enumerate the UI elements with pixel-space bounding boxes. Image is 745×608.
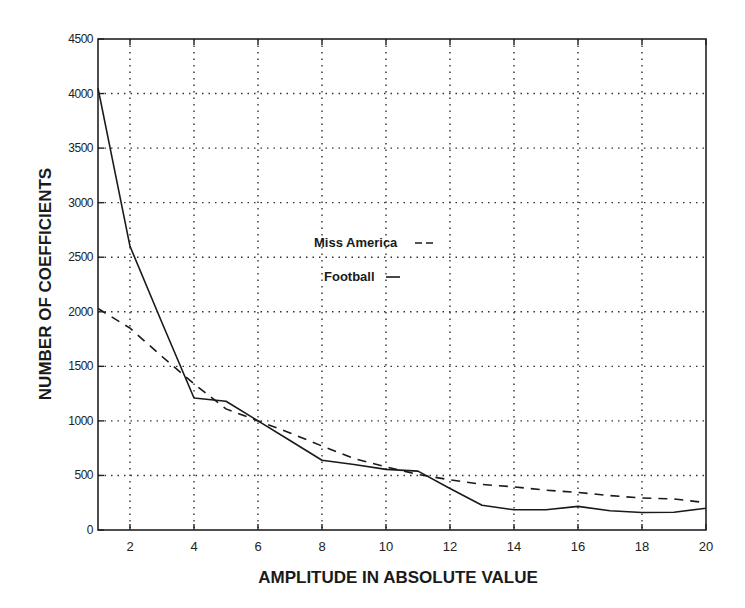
series-football	[98, 88, 706, 512]
grid-lines	[98, 39, 706, 530]
x-tick-label: 4	[190, 539, 197, 554]
x-tick-label: 2	[126, 539, 133, 554]
y-tick-label: 1500	[68, 359, 94, 373]
x-tick-label: 8	[318, 539, 325, 554]
y-tick-label: 4500	[68, 32, 94, 46]
y-tick-label: 0	[87, 523, 94, 537]
data-series	[98, 88, 706, 512]
y-tick-label: 4000	[68, 87, 94, 101]
y-axis-title: NUMBER OF COEFFICIENTS	[36, 168, 55, 400]
legend-label-miss-america: Miss America	[314, 235, 398, 250]
x-tick-label: 18	[635, 539, 649, 554]
series-miss-america	[98, 309, 706, 503]
y-tick-label: 1000	[68, 414, 94, 428]
x-axis-ticks: 2468101214161820	[126, 39, 713, 554]
x-tick-label: 10	[379, 539, 393, 554]
x-tick-label: 6	[254, 539, 261, 554]
y-tick-label: 2000	[68, 305, 94, 319]
y-tick-label: 3000	[68, 196, 94, 210]
line-chart: 2468101214161820 05001000150020002500300…	[0, 0, 745, 608]
x-tick-label: 12	[443, 539, 457, 554]
x-tick-label: 20	[699, 539, 713, 554]
x-tick-label: 16	[571, 539, 585, 554]
legend-label-football: Football	[324, 269, 375, 284]
plot-frame	[98, 39, 706, 530]
x-axis-title: AMPLITUDE IN ABSOLUTE VALUE	[258, 568, 538, 587]
legend: Miss America Football	[314, 235, 437, 284]
y-tick-label: 3500	[68, 141, 94, 155]
x-tick-label: 14	[507, 539, 521, 554]
y-tick-label: 2500	[68, 250, 94, 264]
y-tick-label: 500	[74, 468, 93, 482]
